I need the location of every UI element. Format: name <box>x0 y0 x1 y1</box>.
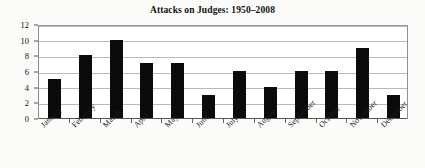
bars-group <box>39 26 407 118</box>
bar <box>110 40 123 118</box>
bar <box>233 71 246 118</box>
y-tick-label: 2 <box>25 98 29 108</box>
y-tick-label: 12 <box>21 20 30 30</box>
bar <box>171 63 184 118</box>
y-tick-label: 4 <box>25 83 29 93</box>
chart-title: Attacks on Judges: 1950–2008 <box>0 5 425 15</box>
y-axis: 024681012 <box>0 25 34 119</box>
bar <box>140 63 153 118</box>
y-tick-label: 8 <box>25 51 29 61</box>
y-tick-label: 6 <box>25 67 29 77</box>
x-axis-labels: JanuaryFebruaryMarchAprilMayJuneJulyAugu… <box>0 119 425 168</box>
y-tick-label: 10 <box>21 36 30 46</box>
bar-chart: Attacks on Judges: 1950–2008 024681012 J… <box>0 0 425 168</box>
